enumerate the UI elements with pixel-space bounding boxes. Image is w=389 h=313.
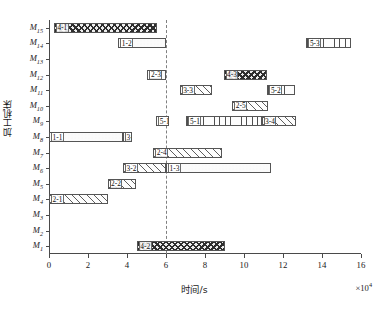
gantt-bar[interactable]: 2-1 xyxy=(49,194,108,204)
gantt-bar-label: 3-3 xyxy=(182,85,195,95)
gantt-bar-label: 2-3 xyxy=(149,70,162,80)
gantt-bar[interactable]: 5-2 xyxy=(267,85,294,95)
gantt-bar[interactable]: 1-2 xyxy=(118,38,166,48)
y-tick-label-m7: M7 xyxy=(33,147,43,159)
y-tick-label-m14: M14 xyxy=(30,38,43,50)
gantt-bar[interactable]: 3-3 xyxy=(180,85,212,95)
gantt-bar-label: 3-4 xyxy=(264,116,277,126)
x-tick-label: 0 xyxy=(47,260,51,270)
gantt-bar[interactable]: 3-2 xyxy=(123,163,166,173)
gantt-bar-label: 4-1 xyxy=(56,23,69,33)
x-tick-label: 16 xyxy=(357,260,366,270)
gantt-bar-label: 2-1 xyxy=(51,194,64,204)
y-axis-label-holder: 加工机床 xyxy=(1,99,15,137)
x-tick-label: 12 xyxy=(279,260,288,270)
y-tick-label-m2: M2 xyxy=(33,225,43,237)
x-tick-label: 4 xyxy=(125,260,129,270)
gantt-bar-label: 1-3 xyxy=(168,163,181,173)
gantt-bar[interactable]: 5-1 xyxy=(186,116,261,126)
x-axis-exponent: ×104 xyxy=(355,281,372,293)
gantt-bar[interactable]: 5-1 xyxy=(156,116,169,126)
gantt-bar[interactable]: 3-1 xyxy=(123,132,132,142)
y-tick-mark xyxy=(46,184,49,185)
gantt-bar-label: 2-5 xyxy=(234,101,247,111)
y-tick-mark xyxy=(46,215,49,216)
gantt-bar-label: 2-4 xyxy=(155,148,168,158)
y-tick-mark xyxy=(46,59,49,60)
x-tick-label: 14 xyxy=(318,260,327,270)
gantt-bar[interactable]: 4-1 xyxy=(54,23,157,33)
y-tick-mark xyxy=(46,75,49,76)
gantt-chart: 加工机床 M1M2M3M4M5M6M7M8M9M10M11M12M13M14M1… xyxy=(0,0,389,313)
gantt-bar[interactable]: 5-3 xyxy=(306,38,351,48)
x-tick-mark xyxy=(283,254,284,258)
y-tick-label-m4: M4 xyxy=(33,194,43,206)
y-tick-mark xyxy=(46,231,49,232)
y-tick-label-m10: M10 xyxy=(30,100,43,112)
gantt-bar[interactable]: 2-4 xyxy=(153,148,221,158)
y-tick-label-m5: M5 xyxy=(33,178,43,190)
x-tick-mark xyxy=(244,254,245,258)
x-tick-mark xyxy=(205,254,206,258)
y-tick-mark xyxy=(46,106,49,107)
x-tick-mark xyxy=(361,254,362,258)
y-axis-label: 加工机床 xyxy=(1,99,15,137)
gantt-bar[interactable]: 1-1 xyxy=(49,132,123,142)
gantt-bar[interactable]: 4-2 xyxy=(137,241,225,251)
y-tick-mark xyxy=(46,168,49,169)
y-tick-label-m11: M11 xyxy=(30,84,43,96)
gantt-bar-label: 1-2 xyxy=(120,38,133,48)
gantt-bar[interactable]: 2-2 xyxy=(108,179,136,189)
x-tick-mark xyxy=(166,254,167,258)
gantt-bar-label: 4-2 xyxy=(139,241,152,251)
x-tick-label: 10 xyxy=(240,260,249,270)
y-tick-label-m6: M6 xyxy=(33,162,43,174)
gantt-bar-label: 2-2 xyxy=(110,179,123,189)
gantt-bar-label: 5-1 xyxy=(188,116,201,126)
gantt-bar-label: 3-1 xyxy=(125,132,132,142)
gantt-bar-label: 1-1 xyxy=(51,132,64,142)
x-tick-mark xyxy=(49,254,50,258)
gantt-bar[interactable]: 1-3 xyxy=(166,163,271,173)
gantt-bar-label: 5-2 xyxy=(269,85,282,95)
gantt-bar[interactable]: 2-3 xyxy=(147,70,166,80)
y-tick-label-m1: M1 xyxy=(33,240,43,252)
plot-area: M1M2M3M4M5M6M7M8M9M10M11M12M13M14M150246… xyxy=(49,20,361,254)
y-tick-label-m3: M3 xyxy=(33,209,43,221)
y-tick-label-m12: M12 xyxy=(30,69,43,81)
x-tick-mark xyxy=(88,254,89,258)
gantt-bar-label: 4-3 xyxy=(226,70,239,80)
y-tick-mark xyxy=(46,28,49,29)
x-tick-mark xyxy=(127,254,128,258)
x-axis-label: 时间/s xyxy=(0,282,389,296)
x-tick-label: 2 xyxy=(86,260,90,270)
y-tick-label-m8: M8 xyxy=(33,131,43,143)
y-tick-label-m15: M15 xyxy=(30,22,43,34)
y-tick-mark xyxy=(46,153,49,154)
gantt-bar-label: 3-2 xyxy=(125,163,138,173)
gantt-bar[interactable]: 2-5 xyxy=(232,101,268,111)
y-tick-label-m9: M9 xyxy=(33,116,43,128)
x-tick-label: 6 xyxy=(164,260,168,270)
gantt-bar[interactable]: 3-4 xyxy=(262,116,296,126)
gantt-bar-label: 5-3 xyxy=(308,38,321,48)
y-tick-label-m13: M13 xyxy=(30,53,43,65)
y-tick-mark xyxy=(46,246,49,247)
y-tick-mark xyxy=(46,90,49,91)
marker-line xyxy=(166,20,167,254)
y-tick-mark xyxy=(46,121,49,122)
gantt-bar[interactable]: 4-3 xyxy=(224,70,268,80)
x-tick-mark xyxy=(322,254,323,258)
gantt-bar-label: 5-1 xyxy=(158,116,169,126)
y-tick-mark xyxy=(46,43,49,44)
x-tick-label: 8 xyxy=(203,260,207,270)
